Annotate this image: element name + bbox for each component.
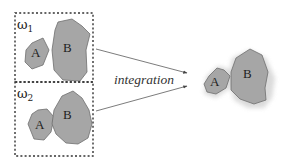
arrow-from-panel-2 xyxy=(96,86,187,111)
panel-2-region-b-label: B xyxy=(63,107,72,122)
result-region-a-label: A xyxy=(210,74,220,89)
integrated-result: A B xyxy=(204,49,275,108)
panel-1-region-a-label: A xyxy=(31,45,41,60)
panel-1-omega-label: ω1 xyxy=(17,17,33,34)
panel-omega-1: ω1 A B xyxy=(15,13,93,82)
panel-1-region-b-label: B xyxy=(63,40,72,55)
arrow-from-panel-1 xyxy=(96,49,187,73)
result-region-b-label: B xyxy=(243,66,252,81)
integration-diagram: ω1 A B ω2 A B integration A B xyxy=(0,0,282,167)
panel-2-region-a-label: A xyxy=(35,117,45,132)
integration-label: integration xyxy=(114,72,174,87)
panel-omega-2: ω2 A B xyxy=(15,82,93,156)
panel-2-omega-label: ω2 xyxy=(17,86,33,103)
panel-2-region-b xyxy=(52,91,92,144)
